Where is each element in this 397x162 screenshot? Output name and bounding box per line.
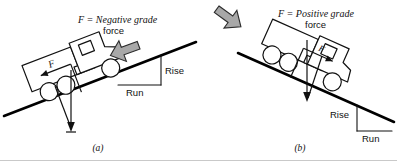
panel-a-force-label-line1: F = Negative grade [77,14,158,25]
panel-a-force-label-line2: force [103,25,124,36]
figure-svg: Rise Run [0,0,397,162]
grade-force-figure: Rise Run [0,0,397,162]
panel-b-force-label-line1: F = Positive grade [277,8,354,19]
panel-a-truck: F [21,28,129,109]
panel-b: Rise Run [210,0,394,154]
panel-b-caption: (b) [294,143,305,154]
panel-a-run-label: Run [126,87,143,98]
panel-a: Rise Run [4,14,196,154]
panel-b-rise-label: Rise [330,109,349,120]
panel-a-caption: (a) [92,143,103,154]
panel-b-grade-force-arrow [210,0,247,35]
panel-b-run-label: Run [362,133,379,144]
panel-b-force-label-line2: force [305,19,326,30]
panel-a-rise-label: Rise [165,65,184,76]
